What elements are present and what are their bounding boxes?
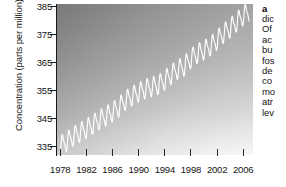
caption-text: dicOfacbufosdecomoatrlev [262,14,286,118]
x-axis-tick [217,149,218,156]
co2-chart: Concentration (parts per million) 335345… [0,0,256,187]
x-axis-tick [243,149,244,156]
y-axis-tick [50,34,56,35]
plot-area [57,4,253,155]
x-axis-tick [86,149,87,156]
figure-panel: Concentration (parts per million) 335345… [0,0,286,187]
x-axis-tick [190,149,191,156]
x-axis-tick [60,149,61,156]
x-tick-label: 2006 [223,165,263,175]
x-axis-tick [164,149,165,156]
x-axis-tick [112,149,113,156]
y-axis-tick [50,6,56,7]
y-axis-tick [50,146,56,147]
x-axis-tick [138,149,139,156]
co2-line-path [60,5,249,154]
y-axis-tick [50,118,56,119]
y-axis-tick [50,62,56,63]
y-axis-tick [50,90,56,91]
caption-column: a dicOfacbufosdecomoatrlev [262,3,286,187]
co2-line-svg [57,4,253,155]
caption-line: lev [262,108,286,118]
